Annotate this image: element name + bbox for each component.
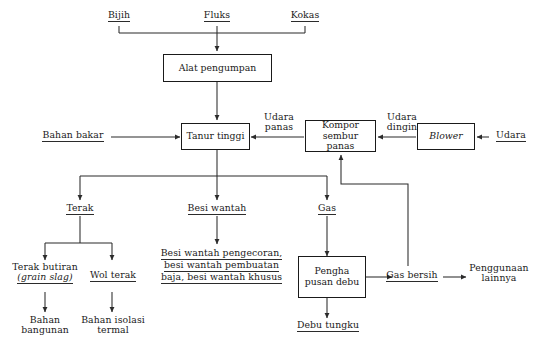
input-label-udara: Udara [487, 130, 535, 142]
product-wol-terak: Wol terak [85, 270, 141, 282]
product-bahan-isolasi-termal: Bahan isolasi termal [76, 315, 150, 336]
input-label-bijih: Bijih [94, 10, 144, 22]
input-label-kokas: Kokas [280, 10, 330, 22]
stream-label-udara-panas: Udara panas [255, 112, 303, 133]
flowchart-canvas: Bijih Fluks Kokas Alat pengumpan Bahan b… [0, 0, 539, 351]
box-tanur-tinggi: Tanur tinggi [181, 123, 250, 150]
product-terak-butiran: Terak butiran (grain slag) [5, 262, 85, 284]
connector-layer [0, 0, 539, 351]
box-kompor-sembur-panas: Kompor sembur panas [305, 120, 376, 152]
box-blower: Blower [417, 123, 475, 150]
product-debu-tungku: Debu tungku [293, 320, 363, 332]
product-penggunaan-lainnya: Penggunaan lainnya [465, 263, 533, 284]
output-label-besi-wantah: Besi wantah [178, 203, 256, 215]
input-label-bahan-bakar: Bahan bakar [34, 130, 112, 142]
product-besi-wantah-list: Besi wantah pengecoran, besi wantah pemb… [158, 248, 285, 284]
output-label-gas: Gas [302, 203, 352, 215]
output-label-terak: Terak [55, 203, 105, 215]
product-bahan-bangunan: Bahan bangunan [13, 315, 77, 336]
box-penghapusan-debu: Pengha pusan debu [298, 256, 366, 298]
input-label-fluks: Fluks [192, 10, 242, 22]
product-gas-bersih: Gas bersih [382, 270, 442, 282]
box-alat-pengumpan: Alat pengumpan [163, 54, 272, 82]
